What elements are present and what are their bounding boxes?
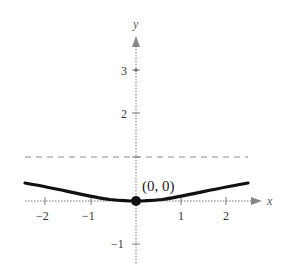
origin-point-label: (0, 0) [142,178,175,195]
x-tick-label-2: 2 [223,209,229,223]
y-axis-label: y [132,17,139,31]
x-tick-label-1: 1 [178,209,184,223]
x-tick-label-neg2: −2 [36,209,49,223]
x-axis-arrow-icon [251,197,262,205]
x-tick-label-neg1: −1 [82,209,95,223]
y-tick-label-2: 2 [121,107,127,121]
x-axis-label: x [266,194,273,208]
origin-point [131,196,141,206]
y-tick-label-3: 3 [121,64,127,78]
y-axis-arrow-icon [132,36,140,47]
graph: y x −2 −1 1 2 3 2 −1 (0, 0) [0,0,289,279]
y-tick-label-neg1: −1 [111,237,124,251]
y-tick-dot [134,68,137,71]
